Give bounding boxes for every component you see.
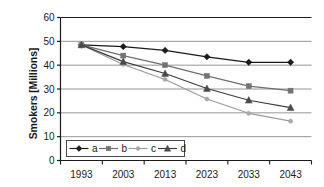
legend-label-c: c xyxy=(151,143,156,154)
y-tick-label: 40 xyxy=(43,60,55,71)
marker-dot xyxy=(288,119,292,123)
marker-square xyxy=(246,84,251,89)
x-tick-label: 2003 xyxy=(112,169,135,180)
y-axis-ticks: 0102030405060 xyxy=(43,12,60,166)
x-tick-label: 2013 xyxy=(154,169,177,180)
chart-container: Smokers [Millions] 010203040506019932003… xyxy=(0,0,324,187)
legend-label-b: b xyxy=(122,143,128,154)
line-chart-svg: 0102030405060199320032013202320332043abc… xyxy=(0,0,324,187)
x-tick-label: 2023 xyxy=(196,169,219,180)
series-line-b xyxy=(81,45,290,91)
marker-diamond xyxy=(204,54,210,60)
series-line-d xyxy=(81,45,290,108)
marker-square xyxy=(106,146,111,151)
marker-diamond xyxy=(120,43,126,49)
legend: abcd xyxy=(67,141,187,157)
x-tick-label: 1993 xyxy=(70,169,93,180)
marker-square xyxy=(163,63,168,68)
marker-dot xyxy=(136,147,140,151)
marker-square xyxy=(288,88,293,93)
marker-diamond xyxy=(162,47,168,53)
series-b xyxy=(79,42,293,93)
marker-square xyxy=(121,53,126,58)
series-c xyxy=(79,43,292,123)
marker-square xyxy=(204,73,209,78)
y-tick-label: 30 xyxy=(43,84,55,95)
legend-label-d: d xyxy=(181,143,187,154)
series-d xyxy=(78,41,294,110)
marker-diamond xyxy=(287,59,293,65)
series-a xyxy=(78,42,294,66)
x-tick-label: 2033 xyxy=(238,169,261,180)
y-tick-label: 0 xyxy=(49,155,55,166)
marker-dot xyxy=(247,111,251,115)
y-tick-label: 50 xyxy=(43,36,55,47)
x-axis-ticks: 199320032013202320332043 xyxy=(61,161,312,180)
y-tick-label: 10 xyxy=(43,131,55,142)
y-tick-label: 20 xyxy=(43,107,55,118)
legend-label-a: a xyxy=(92,143,98,154)
plot-area: 0102030405060199320032013202320332043abc… xyxy=(0,0,324,187)
x-tick-label: 2043 xyxy=(279,169,302,180)
y-tick-label: 60 xyxy=(43,12,55,23)
marker-diamond xyxy=(246,59,252,65)
marker-dot xyxy=(163,77,167,81)
series-line-c xyxy=(81,45,290,121)
marker-dot xyxy=(205,97,209,101)
